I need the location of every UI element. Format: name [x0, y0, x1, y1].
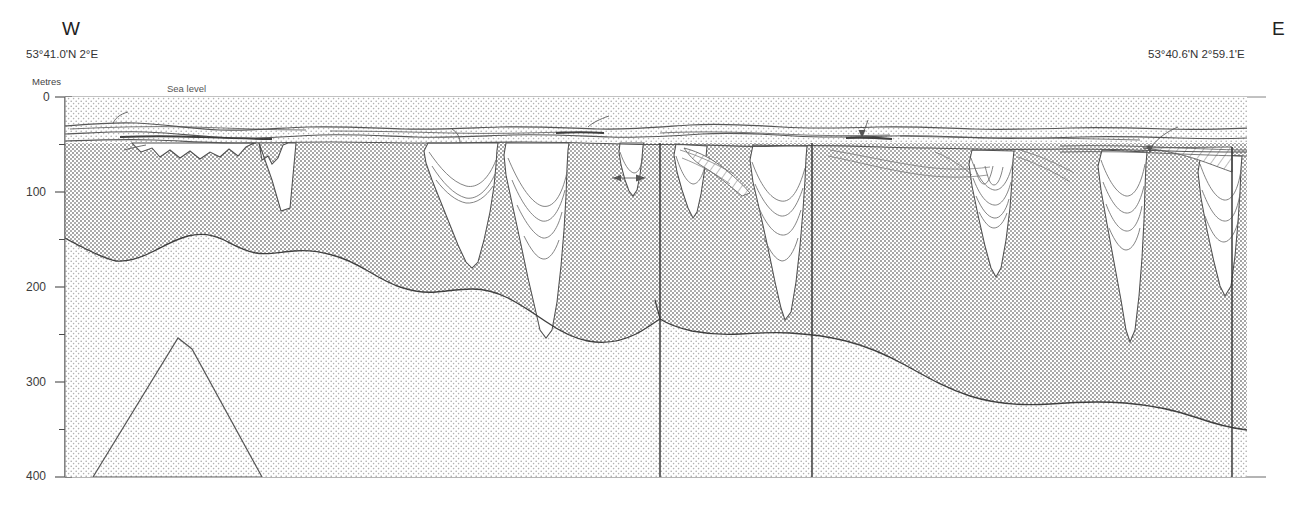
bdk-lens-2 [846, 138, 892, 139]
bdk-lens-1 [556, 132, 604, 133]
cross-section-drawing [0, 0, 1303, 505]
geological-cross-section-figure: W E 53°41.0'N 2°E 53°40.6'N 2°59.1'E Met… [0, 0, 1303, 505]
